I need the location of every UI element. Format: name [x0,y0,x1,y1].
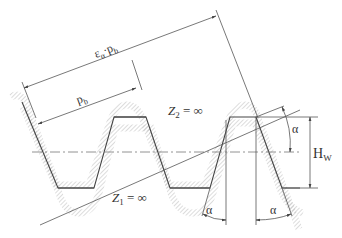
rack-meshing-diagram: εα·pb pb Z2 = ∞ Z1 = ∞ α HW α α [0,0,342,238]
angle-ref-line-right [256,106,284,117]
contact-length-label: εα·pb [92,39,119,62]
angle-label-bottom-right: α [270,203,277,217]
extension-line-right [216,10,258,118]
angle-label-bottom-left: α [206,203,213,217]
contact-length-dimension [24,16,216,88]
extension-line-mid [132,60,142,90]
angle-arc-right [282,107,290,152]
base-pitch-label: pb [74,90,89,108]
lower-rack-label: Z1 = ∞ [112,190,147,207]
upper-rack-label: Z2 = ∞ [168,103,203,120]
angle-label-right: α [292,122,299,136]
line-of-action [40,110,300,225]
working-depth-label: HW [313,146,332,163]
